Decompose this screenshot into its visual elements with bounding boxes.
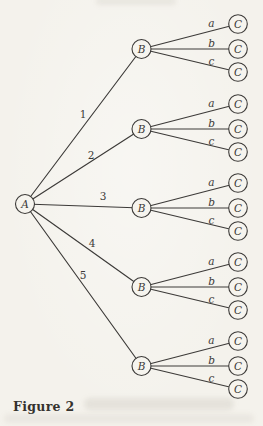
outcome-label-c-1: c [209,55,215,67]
edge-B1-C1 [142,24,239,49]
node-B2-label: B [137,123,146,135]
outcome-label-c-4: c [209,293,215,305]
outcome-label-c-3: c [209,214,215,226]
branch-label-4: 4 [89,237,96,249]
tree-diagram: 1abc2abc3abc4abc5abcABCCCBCCCBCCCBCCCBCC… [0,0,263,426]
node-B3-label: B [137,202,146,214]
node-C1-1-label: C [234,18,242,30]
outcome-label-a-3: a [208,176,214,188]
node-C4-3-label: C [234,304,242,316]
edge-B4-C1 [142,262,239,287]
branch-label-3: 3 [100,190,107,202]
node-C5-1-label: C [234,335,242,347]
node-C2-2-label: C [234,123,242,135]
outcome-label-c-5: c [209,372,215,384]
outcome-label-b-5: b [208,354,215,366]
node-C1-2-label: C [234,43,242,55]
node-C5-3-label: C [234,383,242,395]
edge-B3-C1 [142,183,239,208]
outcome-label-a-5: a [208,334,214,346]
node-C4-2-label: C [234,281,242,293]
node-B4-label: B [137,281,146,293]
node-C3-3-label: C [234,225,242,237]
scanned-page: 1abc2abc3abc4abc5abcABCCCBCCCBCCCBCCCBCC… [0,0,263,426]
figure-caption: Figure 2 [13,399,74,414]
outcome-label-b-2: b [208,117,215,129]
outcome-label-a-2: a [208,97,214,109]
outcome-label-c-2: c [209,135,215,147]
edge-B1-C3 [142,49,239,72]
node-A-label: A [20,198,29,210]
branch-label-1: 1 [80,108,87,120]
edge-B3-C3 [142,208,239,231]
node-C3-2-label: C [234,202,242,214]
node-C1-3-label: C [234,66,242,78]
edge-A-B2 [25,129,142,204]
node-C5-2-label: C [234,360,242,372]
node-C2-1-label: C [234,98,242,110]
edge-B5-C3 [142,366,239,389]
edge-B2-C1 [142,104,239,129]
outcome-label-b-1: b [208,37,215,49]
branch-label-2: 2 [88,149,95,161]
node-C2-3-label: C [234,146,242,158]
node-B5-label: B [137,360,146,372]
outcome-label-a-4: a [208,255,214,267]
branch-label-5: 5 [80,269,87,281]
edge-A-B1 [25,49,142,204]
outcome-label-a-1: a [208,17,214,29]
node-C3-1-label: C [234,177,242,189]
outcome-label-b-3: b [208,196,215,208]
edge-A-B3 [25,204,142,208]
edge-B5-C1 [142,341,239,366]
edge-B2-C3 [142,129,239,152]
outcome-label-b-4: b [208,275,215,287]
node-B1-label: B [137,43,146,55]
node-C4-1-label: C [234,256,242,268]
edge-B4-C3 [142,287,239,310]
edge-A-B5 [25,204,142,366]
